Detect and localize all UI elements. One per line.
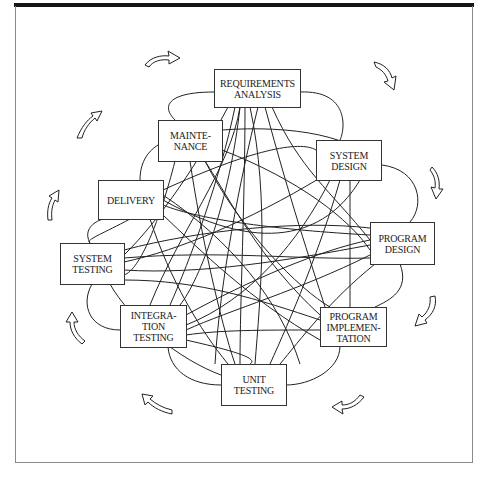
node-system-design: SYSTEM DESIGN	[316, 140, 382, 181]
node-label: UNIT	[242, 374, 265, 385]
node-label: MAINTE-	[170, 130, 211, 141]
node-label: SYSTEM	[73, 253, 111, 264]
node-label: IMPLEMEN-	[327, 322, 381, 333]
node-label: TESTING	[133, 332, 173, 343]
cycle-arrow-icon	[64, 310, 86, 346]
cycle-arrow-icon	[138, 392, 174, 418]
cycle-arrow-icon	[413, 294, 439, 328]
node-delivery: DELIVERY	[98, 180, 164, 220]
node-label: TION	[142, 321, 165, 332]
node-label: PROGRAM	[378, 233, 426, 244]
node-program-implementation: PROGRAM IMPLEMEN- TATION	[320, 307, 387, 347]
node-label: TESTING	[72, 264, 112, 275]
cycle-arrow-icon	[372, 58, 400, 92]
cycle-arrow-icon	[44, 188, 62, 222]
node-label: NANCE	[174, 141, 207, 152]
cycle-arrow-icon	[73, 108, 103, 140]
node-label: INTEGRA-	[131, 310, 177, 321]
node-label: DESIGN	[385, 244, 420, 255]
node-program-design: PROGRAM DESIGN	[370, 222, 435, 265]
node-label: PROGRAM	[329, 311, 377, 322]
node-label: DESIGN	[331, 161, 366, 172]
node-label: TATION	[336, 333, 370, 344]
node-unit-testing: UNIT TESTING	[221, 364, 287, 406]
node-maintenance: MAINTE- NANCE	[158, 120, 223, 162]
cycle-arrow-icon	[428, 165, 446, 201]
node-label: DELIVERY	[107, 195, 155, 206]
cycle-arrow-icon	[330, 393, 366, 417]
node-integration-testing: INTEGRA- TION TESTING	[120, 305, 187, 348]
node-system-testing: SYSTEM TESTING	[60, 243, 125, 285]
node-label: TESTING	[234, 385, 274, 396]
node-label: REQUIREMENTS	[220, 78, 295, 89]
node-label: SYSTEM	[330, 150, 368, 161]
node-requirements-analysis: REQUIREMENTS ANALYSIS	[214, 69, 301, 108]
cycle-arrow-icon	[143, 47, 183, 69]
node-label: ANALYSIS	[234, 89, 281, 100]
